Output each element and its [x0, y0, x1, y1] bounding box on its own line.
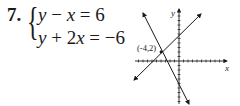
coordinate-graph: x y (-4,2)	[0, 0, 240, 106]
intersection-point	[160, 51, 163, 54]
y-axis-label: y	[170, 8, 175, 18]
x-axis-label: x	[224, 63, 229, 73]
x-axis	[135, 60, 227, 63]
line-y-equals-neg2x-minus-6	[143, 13, 189, 104]
intersection-label: (-4,2)	[137, 43, 156, 53]
y-axis	[178, 9, 181, 104]
